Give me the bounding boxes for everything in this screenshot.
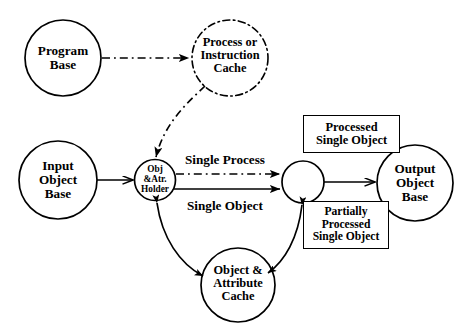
node-program-base-circle bbox=[25, 20, 101, 96]
processed-single-object-line-2: Single Object bbox=[316, 134, 387, 147]
box-partially-processed-single-object: Partially Processed Single Object bbox=[303, 201, 389, 249]
edge-label-single-object: Single Object bbox=[187, 198, 263, 214]
edge-cache-process-bidirectional bbox=[268, 205, 302, 273]
edge-cache-to-obj-atr-holder bbox=[156, 86, 205, 157]
partially-processed-line-3: Single Object bbox=[313, 231, 380, 244]
processed-single-object-line-1: Processed bbox=[325, 121, 377, 134]
node-object-attribute-cache-circle bbox=[201, 248, 275, 322]
diagram-canvas: Program Base Process or Instruction Cach… bbox=[0, 0, 461, 327]
node-input-object-base-circle bbox=[19, 141, 97, 219]
box-processed-single-object: Processed Single Object bbox=[303, 115, 400, 153]
node-process-circle bbox=[282, 161, 324, 203]
node-obj-atr-holder-circle bbox=[135, 160, 176, 201]
edge-label-single-process: Single Process bbox=[185, 152, 265, 168]
node-process-or-instruction-cache-circle bbox=[192, 20, 268, 96]
partially-processed-line-1: Partially bbox=[324, 206, 367, 219]
